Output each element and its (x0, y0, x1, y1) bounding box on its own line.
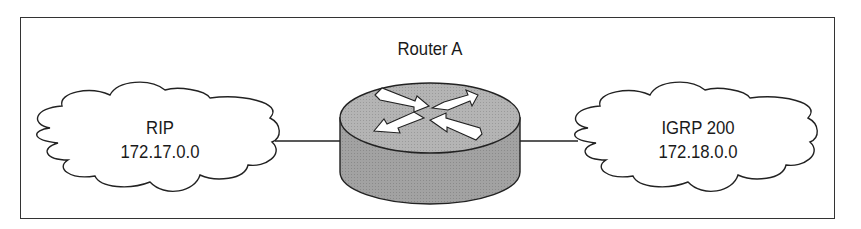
cloud-igrp-label: IGRP 200 172.18.0.0 (610, 116, 786, 164)
network-protocol: RIP (72, 116, 248, 140)
cloud-rip-label: RIP 172.17.0.0 (72, 116, 248, 164)
network-protocol: IGRP 200 (610, 116, 786, 140)
router-label: Router A (342, 37, 518, 61)
network-address: 172.17.0.0 (72, 140, 248, 164)
router-icon (340, 83, 520, 204)
network-address: 172.18.0.0 (610, 140, 786, 164)
network-diagram (0, 0, 861, 229)
